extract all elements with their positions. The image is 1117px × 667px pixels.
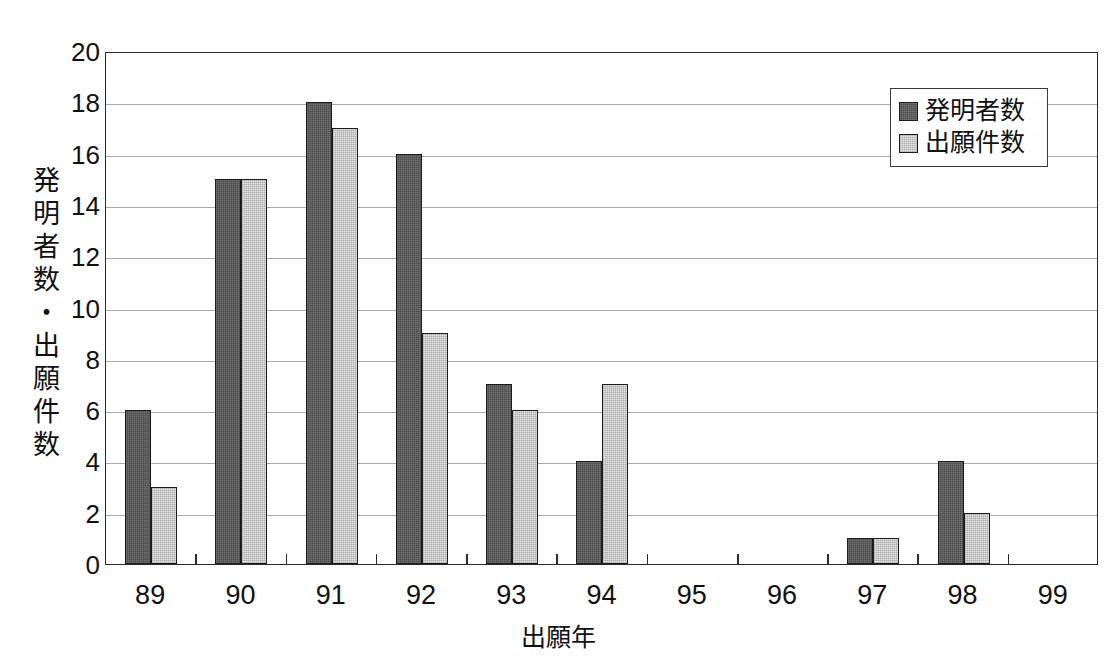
bar [241, 179, 267, 564]
chart-page: 発 明 者 数 ・ 出 願 件 数 20181614121086420 8990… [0, 0, 1117, 667]
x-axis-tick-labels: 8990919293949596979899 [105, 578, 1098, 618]
bar [125, 410, 151, 564]
bar [486, 384, 512, 564]
x-axis-tick [556, 554, 558, 565]
bar [332, 128, 358, 564]
bar [396, 154, 422, 564]
y-axis-tick-label: 20 [56, 39, 100, 65]
x-axis-tick [1008, 554, 1010, 565]
x-axis-tick-label: 94 [556, 578, 646, 612]
bar [306, 102, 332, 564]
x-axis-tick-label: 93 [466, 578, 556, 612]
x-axis-tick [286, 554, 288, 565]
bar [873, 538, 899, 564]
x-axis-tick-label: 91 [286, 578, 376, 612]
x-axis-tick [737, 554, 739, 565]
y-axis-tick-label: 12 [56, 244, 100, 270]
bar [938, 461, 964, 564]
y-axis-tick-label: 8 [56, 347, 100, 373]
y-axis-tick-label: 4 [56, 449, 100, 475]
bar-group [196, 53, 286, 564]
x-axis-tick-label: 89 [105, 578, 195, 612]
x-axis-tick [827, 554, 829, 565]
bar [964, 513, 990, 564]
x-axis-tick-label: 99 [1008, 578, 1098, 612]
bar [422, 333, 448, 564]
bar [602, 384, 628, 564]
legend-item: 出願件数 [899, 127, 1039, 159]
bar-group [648, 53, 738, 564]
x-axis-tick-label: 92 [376, 578, 466, 612]
bar [576, 461, 602, 564]
x-axis-tick [466, 554, 468, 565]
x-axis-ticks [105, 565, 1098, 579]
x-axis-tick-label: 98 [917, 578, 1007, 612]
x-axis-tick [376, 554, 378, 565]
bar-group [738, 53, 828, 564]
legend-item-label: 発明者数 [925, 97, 1025, 125]
bar-group [467, 53, 557, 564]
y-axis-tick-label: 16 [56, 142, 100, 168]
y-axis-tick-label: 6 [56, 398, 100, 424]
x-axis-tick-label: 95 [647, 578, 737, 612]
y-axis-tick-label: 10 [56, 296, 100, 322]
x-axis-tick [647, 554, 649, 565]
legend-item: 発明者数 [899, 95, 1039, 127]
y-axis-tick-label: 2 [56, 501, 100, 527]
y-axis-tick-label: 0 [56, 552, 100, 578]
y-axis-tick-label: 14 [56, 193, 100, 219]
x-axis-tick-label: 96 [737, 578, 827, 612]
x-axis-title: 出願年 [0, 623, 1117, 653]
x-axis-tick-label: 90 [195, 578, 285, 612]
x-axis-tick [195, 554, 197, 565]
x-axis-tick-label: 97 [827, 578, 917, 612]
legend-swatch-icon [899, 102, 918, 121]
x-axis-tick [917, 554, 919, 565]
y-axis-tick-labels: 20181614121086420 [56, 0, 100, 667]
bar-group [106, 53, 196, 564]
bar [512, 410, 538, 564]
bar [215, 179, 241, 564]
bar-group [377, 53, 467, 564]
bar-group [287, 53, 377, 564]
bar-group [557, 53, 647, 564]
legend-swatch-icon [899, 134, 918, 153]
bar [151, 487, 177, 564]
chart-legend: 発明者数 出願件数 [890, 88, 1048, 167]
y-axis-tick-label: 18 [56, 90, 100, 116]
legend-item-label: 出願件数 [925, 129, 1025, 157]
bar [847, 538, 873, 564]
